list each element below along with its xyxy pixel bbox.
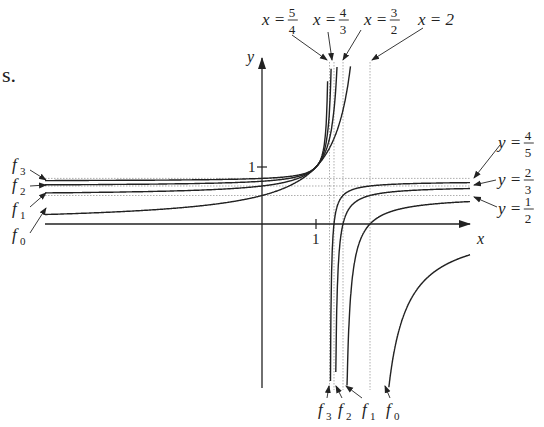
- label-y-2-3: y =23: [496, 165, 534, 197]
- svg-text:1: 1: [370, 410, 376, 422]
- arrow-y-4-5: [474, 145, 500, 178]
- svg-text:x =: x =: [363, 10, 387, 29]
- arrow-left-f0: [30, 208, 46, 233]
- arrow-bottom-f1: [346, 386, 362, 398]
- arrow-x-5-4: [292, 35, 327, 60]
- svg-text:f: f: [338, 400, 345, 419]
- label-y-1-2: y =12: [496, 194, 534, 226]
- svg-text:f: f: [386, 400, 393, 419]
- svg-text:f: f: [362, 400, 369, 419]
- arrow-x-4-3: [328, 32, 332, 60]
- left-label-f3: f3: [12, 155, 26, 177]
- label-x-4-3: x =43: [312, 5, 349, 37]
- svg-text:1: 1: [525, 194, 532, 209]
- curve-f1: [45, 67, 470, 386]
- svg-text:f: f: [12, 199, 19, 218]
- curve-f2: [45, 69, 470, 372]
- svg-text:x =: x =: [261, 10, 285, 29]
- bottom-label-f0: f0: [386, 400, 400, 422]
- left-label-f1: f1: [12, 199, 26, 221]
- arrow-y-2-3: [474, 180, 496, 185]
- svg-text:f: f: [318, 400, 325, 419]
- svg-text:4: 4: [525, 128, 532, 143]
- bottom-label-f1: f1: [362, 400, 376, 422]
- svg-text:1: 1: [20, 209, 26, 221]
- bottom-label-f2: f2: [338, 400, 352, 422]
- svg-text:4: 4: [340, 5, 347, 20]
- label-x-5-4: x =54: [261, 5, 298, 37]
- label-x-3-2: x =32: [363, 5, 400, 37]
- svg-text:3: 3: [391, 5, 398, 20]
- left-label-f2: f2: [12, 175, 26, 197]
- svg-text:2: 2: [391, 22, 398, 37]
- svg-text:5: 5: [289, 5, 296, 20]
- svg-text:2: 2: [525, 211, 532, 226]
- label-y-4-5: y =45: [496, 128, 534, 160]
- function-plot: 11xy x =54x =43x =32x = 2y =45y =23y =12…: [0, 0, 544, 427]
- svg-text:f: f: [12, 175, 19, 194]
- arrow-y-1-2: [474, 197, 497, 207]
- bottom-label-f3: f3: [318, 400, 332, 422]
- svg-text:5: 5: [525, 145, 532, 160]
- arrow-x-2: [372, 28, 423, 60]
- svg-text:y =: y =: [496, 199, 521, 218]
- x-axis-label: x: [476, 230, 484, 247]
- svg-text:3: 3: [340, 22, 347, 37]
- svg-text:y =: y =: [496, 170, 521, 189]
- svg-text:3: 3: [20, 165, 26, 177]
- x-tick-label: 1: [312, 231, 320, 247]
- y-axis-label: y: [245, 48, 255, 66]
- svg-text:2: 2: [525, 165, 532, 180]
- axes: 11xy: [45, 48, 484, 388]
- svg-text:f: f: [12, 155, 19, 174]
- arrow-left-f1: [30, 193, 46, 207]
- arrow-left-f2: [30, 185, 46, 186]
- arrow-bottom-f2: [336, 386, 342, 398]
- svg-text:0: 0: [20, 235, 26, 247]
- svg-text:2: 2: [346, 410, 352, 422]
- svg-text:2: 2: [20, 185, 26, 197]
- asymptote-lines: [45, 62, 470, 390]
- label-x-2: x = 2: [417, 10, 455, 29]
- curves: [45, 66, 470, 387]
- svg-text:y =: y =: [496, 133, 521, 152]
- curve-f3: [45, 81, 470, 381]
- arrow-left-f3: [30, 170, 46, 180]
- left-label-f0: f0: [12, 225, 26, 247]
- curve-f0: [45, 66, 470, 387]
- svg-text:f: f: [12, 225, 19, 244]
- svg-text:x =: x =: [312, 10, 336, 29]
- arrow-bottom-f0: [385, 386, 390, 398]
- svg-text:0: 0: [394, 410, 400, 422]
- svg-text:3: 3: [326, 410, 332, 422]
- arrow-bottom-f3: [327, 386, 329, 398]
- y-tick-label: 1: [248, 159, 256, 175]
